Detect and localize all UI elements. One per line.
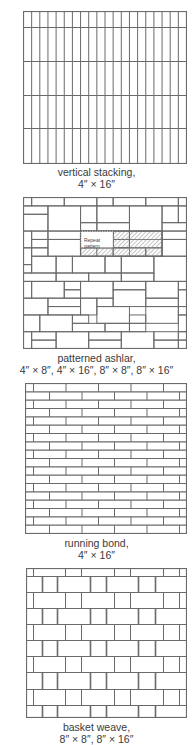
running-bond-diagram: [25, 383, 187, 534]
basket-weave-diagram: [26, 568, 187, 718]
caption-title: basket weave,: [0, 721, 193, 733]
caption-title: running bond,: [0, 537, 193, 549]
repeat-pattern-label: Repeat pattern: [78, 237, 106, 249]
patterned-ashlar-caption: patterned ashlar, 4″ × 8″, 4″ × 16″, 8″ …: [0, 352, 193, 376]
caption-dimensions: 4″ × 16″: [0, 549, 193, 561]
vertical-stacking-diagram: [23, 11, 187, 164]
caption-dimensions: 8″ × 8″, 8″ × 16″: [0, 733, 193, 745]
vertical-stacking-pattern: [23, 11, 187, 164]
basket-weave-caption: basket weave, 8″ × 8″, 8″ × 16″: [0, 721, 193, 745]
vertical-stacking-caption: vertical stacking, 4″ × 16″: [0, 166, 193, 190]
running-bond-caption: running bond, 4″ × 16″: [0, 537, 193, 561]
patterned-ashlar-pattern: [23, 197, 187, 349]
running-bond-pattern: [25, 383, 187, 534]
caption-title: patterned ashlar,: [0, 352, 193, 364]
repeat-label-line2: pattern: [78, 243, 106, 249]
caption-dimensions: 4″ × 8″, 4″ × 16″, 8″ × 8″, 8″ × 16″: [0, 364, 193, 376]
caption-title: vertical stacking,: [0, 166, 193, 178]
caption-dimensions: 4″ × 16″: [0, 178, 193, 190]
patterned-ashlar-diagram: Repeat pattern: [23, 197, 187, 349]
basket-weave-pattern: [26, 568, 187, 718]
